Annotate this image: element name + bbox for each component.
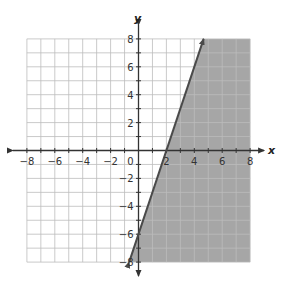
y-tick-label: −2 <box>119 173 134 184</box>
x-tick-label: −2 <box>103 156 118 167</box>
x-tick-label: 0 <box>127 156 133 167</box>
y-tick-label: −4 <box>119 201 134 212</box>
x-tick-label: −8 <box>20 156 35 167</box>
y-tick-label: 4 <box>127 90 133 101</box>
y-axis-label: y <box>134 12 142 25</box>
x-tick-label: −6 <box>47 156 62 167</box>
x-tick-label: −4 <box>75 156 90 167</box>
y-tick-label: 2 <box>127 118 133 129</box>
coordinate-plane: −8−6−4−202468−8−6−4−22468 x y <box>0 0 284 292</box>
x-tick-label: 8 <box>247 156 253 167</box>
y-tick-label: −8 <box>119 257 134 268</box>
x-tick-label: 2 <box>163 156 169 167</box>
x-tick-label: 6 <box>219 156 225 167</box>
y-tick-label: 6 <box>127 62 133 73</box>
x-tick-label: 4 <box>191 156 197 167</box>
y-tick-label: 8 <box>127 34 133 45</box>
y-tick-label: −6 <box>119 229 134 240</box>
x-axis-label: x <box>267 144 276 157</box>
